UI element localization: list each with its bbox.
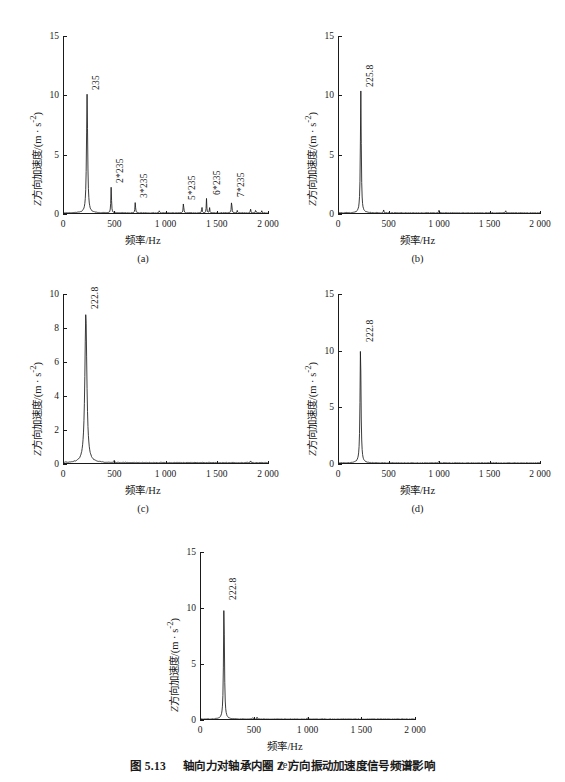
caption-number: 图 5.13 bbox=[130, 760, 166, 772]
peak-label-a-3: 5*235 bbox=[187, 175, 197, 200]
x-axis-title-c: 频率/Hz bbox=[18, 484, 268, 497]
y-tick-label-b-0: 0 bbox=[312, 209, 334, 220]
x-tick-label-a-0: 0 bbox=[61, 219, 66, 230]
x-tick-label-a-2: 1 000 bbox=[155, 219, 176, 230]
x-tick-label-e-0: 0 bbox=[198, 725, 203, 736]
plot-area-b bbox=[338, 36, 540, 214]
y-tick-label-d-3: 15 bbox=[312, 289, 334, 300]
spectrum-trace-b bbox=[338, 36, 540, 214]
x-axis-title-d: 频率/Hz bbox=[290, 484, 545, 497]
x-tick-a-4 bbox=[268, 211, 269, 214]
x-tick-d-4 bbox=[540, 461, 541, 464]
x-tick-label-d-3: 1 500 bbox=[479, 469, 500, 480]
x-tick-label-d-0: 0 bbox=[336, 469, 341, 480]
x-tick-label-d-2: 1 000 bbox=[428, 469, 449, 480]
x-tick-label-b-0: 0 bbox=[336, 219, 341, 230]
y-axis-title-d: Z方向加速度/(m · s-2) bbox=[302, 362, 319, 456]
y-tick-label-b-3: 15 bbox=[312, 31, 334, 42]
x-tick-label-b-2: 1 000 bbox=[428, 219, 449, 230]
chart-panel-b: 05001 0001 5002 000051015225.8频率/HzZ方向加速… bbox=[290, 14, 545, 264]
y-tick-b-0 bbox=[338, 214, 342, 215]
subfigure-label-c: (c) bbox=[18, 502, 268, 515]
peak-label-a-1: 2*235 bbox=[115, 158, 125, 183]
x-tick-label-a-4: 2 000 bbox=[257, 219, 278, 230]
y-tick-label-c-5: 10 bbox=[37, 289, 59, 300]
x-tick-label-c-4: 2 000 bbox=[257, 469, 278, 480]
y-tick-label-b-2: 10 bbox=[312, 90, 334, 101]
y-axis-title-a: Z方向加速度/(m · s-2) bbox=[27, 112, 44, 206]
subfigure-label-d: (d) bbox=[290, 502, 545, 515]
peak-label-d-0: 222.8 bbox=[365, 320, 375, 342]
y-tick-label-e-2: 10 bbox=[174, 603, 196, 614]
chart-panel-c: 05001 0001 5002 0000246810222.8频率/HzZ方向加… bbox=[18, 280, 268, 515]
caption-text: 轴向力对轴承内圈 Z 方向振动加速度信号频谱影响 bbox=[183, 760, 435, 772]
x-axis-title-b: 频率/Hz bbox=[290, 234, 545, 247]
y-axis-title-e: Z方向加速度/(m · s-2) bbox=[164, 618, 181, 712]
figure-page: 05001 0001 5002 0000510152352*2353*2355*… bbox=[0, 0, 565, 782]
y-tick-label-a-3: 15 bbox=[37, 31, 59, 42]
x-tick-label-b-3: 1 500 bbox=[479, 219, 500, 230]
y-tick-label-e-3: 15 bbox=[174, 547, 196, 558]
x-tick-label-c-1: 500 bbox=[107, 469, 121, 480]
y-tick-label-a-0: 0 bbox=[37, 209, 59, 220]
peak-label-a-2: 3*235 bbox=[139, 174, 149, 199]
chart-panel-a: 05001 0001 5002 0000510152352*2353*2355*… bbox=[18, 14, 268, 264]
x-tick-label-e-1: 500 bbox=[247, 725, 261, 736]
y-tick-label-e-0: 0 bbox=[174, 715, 196, 726]
x-tick-label-d-4: 2 000 bbox=[529, 469, 550, 480]
y-axis-title-c: Z方向加速度/(m · s-2) bbox=[27, 362, 44, 456]
x-tick-label-c-3: 1 500 bbox=[206, 469, 227, 480]
x-tick-e-4 bbox=[415, 717, 416, 720]
figure-caption: 图 5.13 轴向力对轴承内圈 Z 方向振动加速度信号频谱影响 bbox=[0, 758, 565, 774]
x-tick-label-a-3: 1 500 bbox=[206, 219, 227, 230]
peak-label-b-0: 225.8 bbox=[365, 64, 375, 86]
plot-area-c bbox=[63, 294, 268, 464]
x-tick-label-e-4: 2 000 bbox=[404, 725, 425, 736]
x-tick-label-b-4: 2 000 bbox=[529, 219, 550, 230]
x-axis-title-e: 频率/Hz bbox=[150, 740, 420, 753]
x-tick-label-a-1: 500 bbox=[107, 219, 121, 230]
peak-label-a-0: 235 bbox=[91, 75, 101, 90]
x-tick-c-4 bbox=[268, 461, 269, 464]
y-tick-label-c-0: 0 bbox=[37, 459, 59, 470]
y-tick-label-a-2: 10 bbox=[37, 90, 59, 101]
x-tick-b-4 bbox=[540, 211, 541, 214]
subfigure-label-a: (a) bbox=[18, 252, 268, 265]
x-tick-label-e-3: 1 500 bbox=[351, 725, 372, 736]
chart-panel-e: 05001 0001 5002 000051015222.8频率/HzZ方向加速… bbox=[150, 540, 420, 768]
spectrum-trace-c bbox=[63, 294, 268, 464]
chart-panel-d: 05001 0001 5002 000051015222.8频率/HzZ方向加速… bbox=[290, 280, 545, 515]
y-tick-label-d-2: 10 bbox=[312, 345, 334, 356]
y-tick-e-0 bbox=[200, 720, 204, 721]
y-axis-title-b: Z方向加速度/(m · s-2) bbox=[302, 112, 319, 206]
y-tick-d-0 bbox=[338, 464, 342, 465]
subfigure-label-b: (b) bbox=[290, 252, 545, 265]
peak-label-e-0: 222.8 bbox=[228, 577, 238, 599]
x-tick-label-e-2: 1 000 bbox=[297, 725, 318, 736]
peak-label-c-0: 222.8 bbox=[90, 287, 100, 309]
x-tick-label-c-2: 1 000 bbox=[155, 469, 176, 480]
y-tick-label-c-4: 8 bbox=[37, 323, 59, 334]
x-tick-label-b-1: 500 bbox=[381, 219, 395, 230]
x-tick-label-c-0: 0 bbox=[61, 469, 66, 480]
peak-label-a-4: 6*235 bbox=[212, 170, 222, 195]
y-tick-a-0 bbox=[63, 214, 67, 215]
peak-label-a-5: 7*235 bbox=[236, 172, 246, 197]
x-tick-label-d-1: 500 bbox=[381, 469, 395, 480]
y-tick-c-0 bbox=[63, 464, 67, 465]
y-tick-label-d-0: 0 bbox=[312, 459, 334, 470]
x-axis-title-a: 频率/Hz bbox=[18, 234, 268, 247]
